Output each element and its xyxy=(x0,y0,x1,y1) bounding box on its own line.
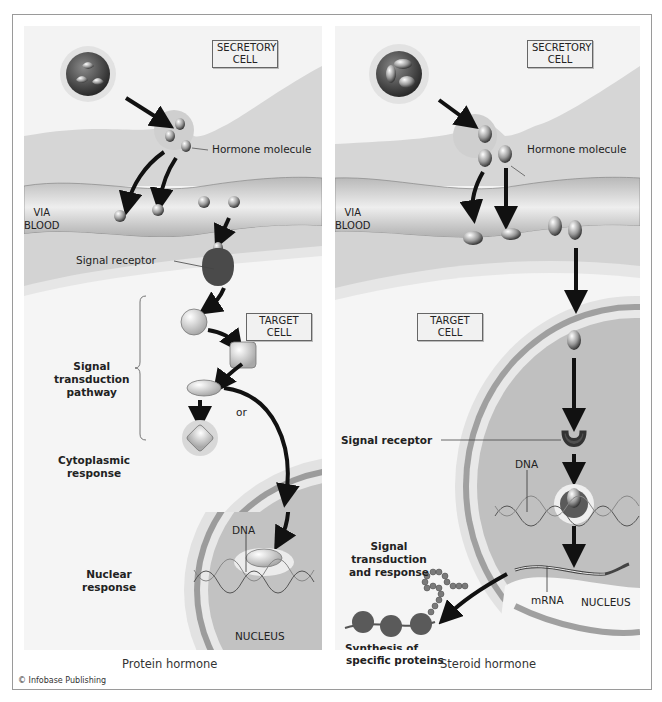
dna-label: DNA xyxy=(515,458,538,471)
synthesis-proteins-label-line2: specific proteins xyxy=(346,654,444,667)
via-blood-label: VIA BLOOD xyxy=(335,206,371,232)
protein-hormone-lower: DNA Nuclear response NUCLEUS xyxy=(24,512,322,650)
secretory-label-line2: CELL xyxy=(532,54,588,66)
mrna-label: mRNA xyxy=(531,594,564,607)
hormone-molecule-label: Hormone molecule xyxy=(212,143,311,156)
str-line2: transduction xyxy=(349,553,429,566)
synthesis-line1: Synthesis of xyxy=(345,642,418,650)
dna-label: DNA xyxy=(232,524,255,537)
nucleus-label: NUCLEUS xyxy=(235,630,285,643)
signal-transduction-pathway-label: Signal transduction pathway xyxy=(54,360,130,399)
steroid-hormone-panel: SECRETORY CELL Hormone molecule VIA BLOO… xyxy=(335,26,640,650)
cytoplasmic-response-label: Cytoplasmic response xyxy=(58,454,130,480)
str-line3: and response xyxy=(349,566,429,579)
nuclear-response-label: Nuclear response xyxy=(82,568,136,594)
signal-receptor-label: Signal receptor xyxy=(76,254,156,267)
nuclear-line2: response xyxy=(82,581,136,594)
secretory-label-line1: SECRETORY xyxy=(217,42,273,54)
via-blood-label: VIA BLOOD xyxy=(24,206,60,232)
protein-hormone-panel: SECRETORY CELL Hormone molecule VIA BLOO… xyxy=(24,26,322,512)
steroid-hormone-caption: Steroid hormone xyxy=(440,657,536,671)
cyto-line2: response xyxy=(58,467,130,480)
secretory-cell-label: SECRETORY CELL xyxy=(527,40,593,68)
signal-transduction-response-label: Signal transduction and response xyxy=(349,540,429,579)
signal-receptor-label: Signal receptor xyxy=(341,434,432,447)
protein-hormone-caption: Protein hormone xyxy=(122,657,217,671)
secretory-label-line2: CELL xyxy=(217,54,273,66)
via-blood-line2: BLOOD xyxy=(24,219,60,232)
hormone-molecule-label: Hormone molecule xyxy=(527,143,626,156)
synthesis-proteins-label: Synthesis of xyxy=(345,642,418,650)
target-label-line1: TARGET xyxy=(251,315,307,327)
via-blood-line2: BLOOD xyxy=(335,219,371,232)
stp-line3: pathway xyxy=(54,386,130,399)
cyto-line1: Cytoplasmic xyxy=(58,454,130,467)
or-label: or xyxy=(236,406,247,419)
secretory-cell-label: SECRETORY CELL xyxy=(212,40,278,68)
copyright-notice: © Infobase Publishing xyxy=(18,676,106,685)
stp-line1: Signal xyxy=(54,360,130,373)
protein-hormone-diagram xyxy=(24,26,322,512)
target-cell-label: TARGET CELL xyxy=(246,313,312,341)
stp-line2: transduction xyxy=(54,373,130,386)
target-cell-label: TARGET CELL xyxy=(417,313,483,341)
secretory-label-line1: SECRETORY xyxy=(532,42,588,54)
via-blood-line1: VIA xyxy=(24,206,60,219)
nucleus-label: NUCLEUS xyxy=(581,596,631,609)
target-label-line1: TARGET xyxy=(422,315,478,327)
via-blood-line1: VIA xyxy=(335,206,371,219)
target-label-line2: CELL xyxy=(422,327,478,339)
nuclear-line1: Nuclear xyxy=(82,568,136,581)
str-line1: Signal xyxy=(349,540,429,553)
target-label-line2: CELL xyxy=(251,327,307,339)
